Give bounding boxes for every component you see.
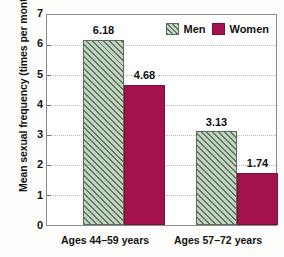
y-tickmark-6 (47, 45, 51, 46)
y-tick-label-0: 0 (23, 219, 43, 231)
bar-men-ages-57-72 (196, 131, 237, 225)
bar-men-ages-44-59 (83, 40, 124, 225)
y-tick-label-5: 5 (23, 68, 43, 80)
legend-swatch-women-icon (212, 23, 225, 35)
legend-label-women: Women (229, 23, 269, 35)
legend-item-women: Women (212, 23, 269, 35)
value-label-women-ages-57-72: 1.74 (237, 157, 278, 169)
y-tickmark-1 (47, 195, 51, 196)
bar-women-ages-57-72 (237, 173, 278, 225)
value-label-men-ages-57-72: 3.13 (196, 116, 237, 128)
y-tickmark-2 (47, 165, 51, 166)
legend-swatch-men-icon (166, 23, 179, 35)
y-tick-label-6: 6 (23, 37, 43, 49)
category-label-ages-57-72: Ages 57–72 years (159, 234, 277, 246)
y-tickmark-3 (47, 135, 51, 136)
category-label-ages-44-59: Ages 44–59 years (46, 234, 164, 246)
value-label-men-ages-44-59: 6.18 (83, 24, 124, 36)
y-tickmark-5 (47, 75, 51, 76)
gridline-6 (47, 45, 276, 46)
y-tickmark-4 (47, 105, 51, 106)
y-tick-label-4: 4 (23, 98, 43, 110)
y-tick-label-7: 7 (23, 7, 43, 19)
value-label-women-ages-44-59: 4.68 (124, 69, 165, 81)
legend-label-men: Men (183, 23, 205, 35)
y-tick-label-3: 3 (23, 128, 43, 140)
y-tick-label-1: 1 (23, 189, 43, 201)
bar-chart-figure: Mean sexual frequency (times per month) … (0, 0, 284, 257)
y-tick-label-2: 2 (23, 158, 43, 170)
legend-item-men: Men (166, 23, 205, 35)
plot-area: 6.18 4.68 3.13 1.74 Men Women (46, 14, 277, 226)
legend: Men Women (166, 23, 269, 35)
bar-women-ages-44-59 (124, 85, 165, 225)
